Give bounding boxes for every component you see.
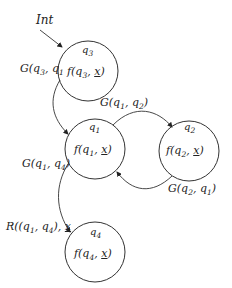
state-q4-name: q4 xyxy=(90,227,101,240)
state-q2-content: f(q2, x) xyxy=(166,145,204,159)
initial-label: Int xyxy=(36,14,53,26)
state-q3-name: q3 xyxy=(82,45,93,58)
edge-q1-q4-label: G(q1, q4) xyxy=(22,158,70,172)
state-q1-name: q1 xyxy=(89,122,100,135)
initial-arrow xyxy=(40,30,62,47)
state-diagram: Int q3 f(q3, x) q1 f(q1, x) q2 f(q2, x) … xyxy=(0,0,232,288)
state-q4-content: f(q4, x) xyxy=(74,248,112,262)
edge-q2-q1 xyxy=(117,172,172,189)
edge-q2-q1-label: G(q2, q1) xyxy=(168,183,216,197)
edge-q3-q1 xyxy=(53,80,68,134)
state-q2-name: q2 xyxy=(184,122,195,135)
state-q1-content: f(q1, x) xyxy=(74,144,112,158)
edge-q1-q2-label: G(q1, q2) xyxy=(100,97,148,111)
edge-q1-q4-reset-label: R((q1, q4), x xyxy=(6,221,71,235)
edge-q3-q1-label: G(q3, q1 xyxy=(20,63,64,77)
state-q3-content: f(q3, x) xyxy=(67,66,105,80)
edge-q1-q2 xyxy=(113,111,172,127)
